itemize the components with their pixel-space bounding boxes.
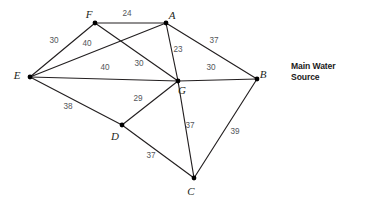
edge-weight-d-c: 37 (146, 151, 156, 160)
edges-group (30, 23, 257, 178)
node-label-a: A (168, 9, 176, 21)
edge-g-b (178, 79, 257, 81)
edge-weight-e-g: 40 (100, 63, 110, 72)
node-label-d: D (110, 130, 119, 142)
edge-weight-a-g: 23 (173, 45, 183, 54)
node-label-e: E (13, 69, 21, 81)
edge-weight-d-g: 29 (133, 94, 143, 103)
node-label-b: B (260, 68, 267, 80)
edge-d-g (122, 81, 178, 125)
edge-weight-g-b: 30 (206, 63, 216, 72)
edge-e-f (30, 23, 95, 77)
graph-canvas: 24304030233740383029373739 ABCDEFG (0, 0, 365, 204)
node-d (120, 123, 125, 128)
edge-e-g (30, 77, 178, 81)
node-label-f: F (85, 8, 93, 20)
edge-d-c (122, 125, 194, 178)
node-a (164, 21, 169, 26)
edge-e-d (30, 77, 122, 125)
edge-weight-f-g: 40 (82, 39, 92, 48)
edge-weight-e-d: 38 (63, 102, 73, 111)
node-label-c: C (187, 185, 195, 197)
edge-weight-e-f: 30 (49, 36, 59, 45)
node-label-g: G (178, 84, 186, 96)
node-e (28, 75, 33, 80)
edge-weight-g-c: 37 (185, 121, 195, 130)
edge-weight-a-e: 30 (134, 59, 144, 68)
main-water-source-caption: Main Water Source (291, 61, 363, 84)
water-network-diagram: 24304030233740383029373739 ABCDEFG Main … (0, 0, 365, 204)
edge-weight-b-c: 39 (230, 127, 240, 136)
edge-b-c (194, 79, 257, 178)
edge-a-e (30, 23, 166, 77)
edge-weight-a-b: 37 (209, 36, 219, 45)
node-c (192, 176, 197, 181)
node-f (93, 21, 98, 26)
edge-weight-f-a: 24 (122, 9, 132, 18)
node-g (176, 79, 181, 84)
edge-f-g (95, 23, 178, 81)
